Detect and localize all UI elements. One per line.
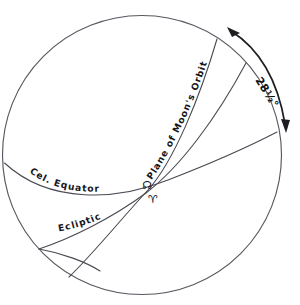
- aries-vernal-equinox-symbol: ♈: [148, 193, 158, 206]
- celestial-sphere-figure: Cel. Equator Ecliptic Plane of Moon's Or…: [0, 0, 300, 305]
- ecliptic-lower-chord: [39, 249, 100, 271]
- moon-orbit-plane-label: Plane of Moon's Orbit: [144, 59, 209, 181]
- celestial-equator-label: Cel. Equator: [28, 165, 100, 194]
- ecliptic-label: Ecliptic: [57, 210, 103, 233]
- inclination-arrow-head-end: [281, 119, 290, 133]
- celestial-equator-arc: [5, 132, 278, 195]
- celestial-sphere-outline: [3, 16, 282, 295]
- ascending-node-symbol: ☊: [142, 179, 152, 192]
- sphere-diagram-svg: Cel. Equator Ecliptic Plane of Moon's Or…: [0, 0, 300, 305]
